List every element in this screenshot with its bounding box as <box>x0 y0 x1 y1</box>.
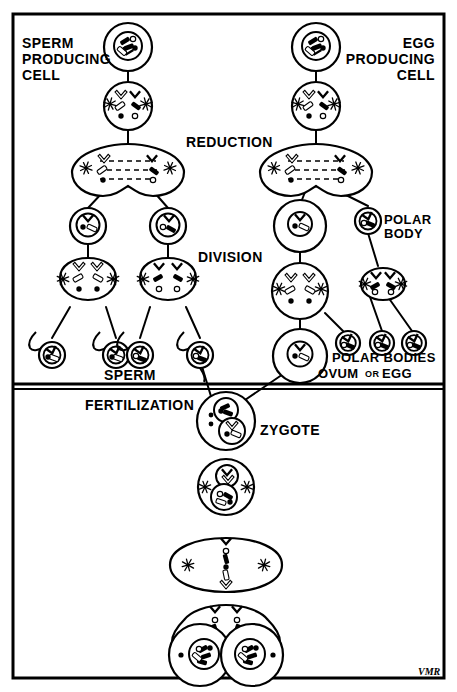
cell-secondary-spermatocyte-left <box>70 208 106 244</box>
label-egg-producing-cell-line2: PRODUCING <box>346 51 435 67</box>
label-sperm-producing-cell-line3: CELL <box>22 67 60 83</box>
cell-egg-prophase <box>290 82 342 130</box>
label-fertilization: FERTILIZATION <box>85 397 194 413</box>
cell-first-polar-body <box>355 208 381 234</box>
label-division: DIVISION <box>198 249 263 265</box>
cell-egg-producing <box>292 23 340 71</box>
label-sperm-producing-cell-line1: SPERM <box>22 35 74 51</box>
label-egg-producing-cell-line3: CELL <box>397 67 435 83</box>
label-or: OR <box>365 369 379 379</box>
label-polar-bodies: POLAR BODIES <box>332 350 436 365</box>
diagram-canvas: SPERM PRODUCING CELL EGG PRODUCING CELL … <box>0 0 457 692</box>
label-sperm: SPERM <box>104 367 156 383</box>
cell-oocyte-second-division <box>271 263 328 319</box>
label-ovum: OVUM <box>318 366 359 381</box>
label-sperm-producing-cell-line2: PRODUCING <box>22 51 111 67</box>
label-egg: EGG <box>382 366 412 381</box>
cell-sperm-prophase <box>102 82 154 130</box>
artist-signature: VMR <box>418 666 441 677</box>
label-polar-body-line1: POLAR <box>384 212 432 227</box>
label-ovum-or-egg: OVUM OR EGG <box>318 366 412 381</box>
label-polar-body-line2: BODY <box>384 226 423 241</box>
cell-secondary-oocyte <box>274 200 326 252</box>
meiosis-fertilization-diagram: SPERM PRODUCING CELL EGG PRODUCING CELL … <box>0 0 457 692</box>
cell-metaphase <box>170 537 282 592</box>
label-reduction: REDUCTION <box>186 134 273 150</box>
label-egg-producing-cell-line1: EGG <box>403 35 435 51</box>
cell-sperm-producing <box>104 23 152 71</box>
cell-fused-nuclei <box>197 459 254 515</box>
cell-secondary-spermatocyte-right <box>150 208 186 244</box>
cell-zygote <box>197 392 255 450</box>
label-zygote: ZYGOTE <box>260 422 320 438</box>
